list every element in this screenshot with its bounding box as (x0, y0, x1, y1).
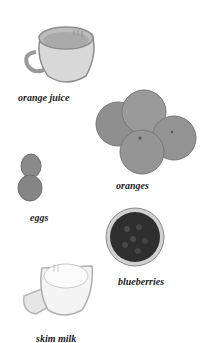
skim-milk-image (16, 258, 96, 322)
blueberries-image (105, 207, 165, 267)
eggs-label: eggs (30, 212, 48, 223)
eggs-image (16, 152, 46, 204)
orange-juice-label: orange juice (18, 92, 69, 103)
skim-milk-label: skim milk (36, 333, 76, 343)
oranges-label: oranges (116, 180, 149, 191)
oranges-image (98, 94, 198, 180)
blueberries-label: blueberries (118, 276, 164, 287)
orange-juice-image (22, 24, 102, 86)
